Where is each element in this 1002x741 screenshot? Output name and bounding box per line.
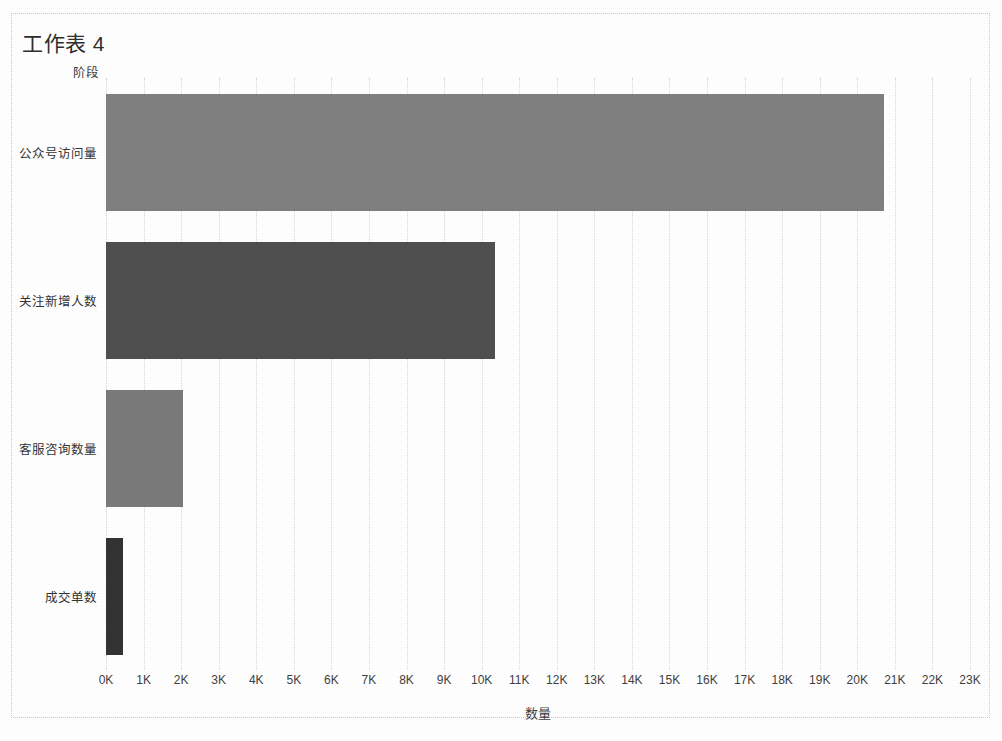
x-tick-11K: 11K	[509, 673, 529, 687]
plot-area	[106, 78, 970, 670]
x-tick-23K: 23K	[959, 673, 980, 687]
x-tick-6K: 6K	[324, 673, 339, 687]
x-tick-12K: 12K	[546, 673, 567, 687]
category-label-4: 成交单数	[45, 587, 97, 606]
y-axis-category-labels: 公众号访问量关注新增人数客服咨询数量成交单数	[0, 78, 101, 670]
x-tick-19K: 19K	[809, 673, 830, 687]
x-tick-4K: 4K	[249, 673, 264, 687]
x-tick-10K: 10K	[471, 673, 492, 687]
bar-3[interactable]	[106, 390, 183, 507]
category-label-1: 公众号访问量	[19, 143, 97, 162]
gridline-22K	[932, 78, 933, 670]
x-tick-20K: 20K	[847, 673, 868, 687]
bar-1[interactable]	[106, 94, 884, 211]
x-tick-2K: 2K	[174, 673, 189, 687]
bar-4[interactable]	[106, 538, 123, 655]
x-tick-22K: 22K	[922, 673, 943, 687]
x-tick-13K: 13K	[584, 673, 605, 687]
x-tick-5K: 5K	[286, 673, 301, 687]
x-tick-14K: 14K	[621, 673, 642, 687]
x-tick-17K: 17K	[734, 673, 755, 687]
x-tick-9K: 9K	[437, 673, 452, 687]
x-tick-0K: 0K	[99, 673, 114, 687]
chart-title: 工作表 4	[22, 27, 105, 57]
x-tick-15K: 15K	[659, 673, 680, 687]
x-tick-3K: 3K	[211, 673, 226, 687]
x-tick-7K: 7K	[362, 673, 377, 687]
x-axis-tick-labels: 0K1K2K3K4K5K6K7K8K9K10K11K12K13K14K15K16…	[106, 673, 970, 693]
chart-page: 工作表 4 阶段 公众号访问量关注新增人数客服咨询数量成交单数 0K1K2K3K…	[0, 0, 1002, 741]
x-axis-title: 数量	[106, 703, 970, 722]
x-tick-21K: 21K	[884, 673, 905, 687]
x-tick-8K: 8K	[399, 673, 414, 687]
x-tick-16K: 16K	[696, 673, 717, 687]
bar-2[interactable]	[106, 242, 495, 359]
category-label-2: 关注新增人数	[19, 291, 97, 310]
x-tick-1K: 1K	[136, 673, 151, 687]
x-tick-18K: 18K	[771, 673, 792, 687]
gridline-23K	[970, 78, 971, 670]
gridline-21K	[895, 78, 896, 670]
category-label-3: 客服咨询数量	[19, 439, 97, 458]
